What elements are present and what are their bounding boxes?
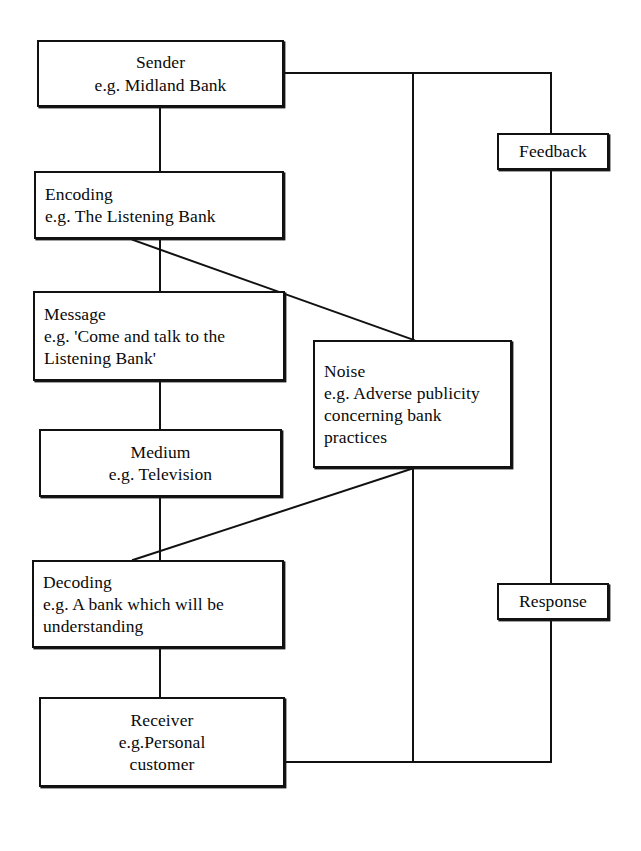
node-message: Message e.g. 'Come and talk to the Liste…: [33, 291, 285, 381]
node-response-label: Response: [499, 590, 607, 612]
node-medium-label: Medium e.g. Television: [41, 441, 280, 485]
node-decoding: Decoding e.g. A bank which will be under…: [32, 560, 284, 648]
connector-response-to-receiver: [285, 620, 551, 762]
node-receiver-label: Receiver e.g.Personal customer: [41, 709, 283, 776]
node-feedback-label: Feedback: [499, 140, 607, 162]
node-response: Response: [497, 583, 609, 620]
communication-process-diagram: Sender e.g. Midland Bank Encoding e.g. T…: [0, 0, 641, 851]
node-receiver: Receiver e.g.Personal customer: [39, 697, 285, 787]
node-noise: Noise e.g. Adverse publicity concerning …: [313, 340, 512, 468]
connector-sender-to-feedback: [284, 73, 551, 133]
node-sender: Sender e.g. Midland Bank: [37, 40, 284, 107]
node-message-label: Message e.g. 'Come and talk to the Liste…: [35, 303, 283, 370]
node-noise-label: Noise e.g. Adverse publicity concerning …: [315, 360, 510, 449]
node-decoding-label: Decoding e.g. A bank which will be under…: [34, 571, 282, 638]
node-encoding: Encoding e.g. The Listening Bank: [34, 171, 284, 239]
node-feedback: Feedback: [497, 133, 609, 170]
node-medium: Medium e.g. Television: [39, 429, 282, 497]
node-sender-label: Sender e.g. Midland Bank: [39, 51, 282, 95]
node-encoding-label: Encoding e.g. The Listening Bank: [36, 183, 282, 227]
